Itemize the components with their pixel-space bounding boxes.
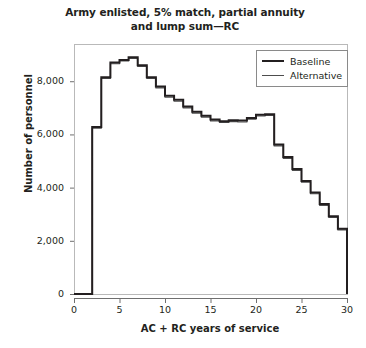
legend-label-baseline: Baseline bbox=[290, 56, 330, 67]
x-tick-label: 25 bbox=[287, 304, 317, 315]
y-tick-label: 4,000 bbox=[18, 182, 64, 193]
series-line-alternative bbox=[74, 58, 347, 294]
x-axis-title: AC + RC years of service bbox=[74, 323, 346, 334]
x-tick-label: 0 bbox=[59, 304, 89, 315]
x-tick-label: 30 bbox=[332, 304, 362, 315]
x-tick-label: 20 bbox=[241, 304, 271, 315]
legend-item-alternative: Alternative bbox=[262, 68, 343, 82]
y-tick-label: 0 bbox=[18, 288, 64, 299]
series-line-baseline bbox=[74, 57, 347, 294]
x-tick-label: 15 bbox=[196, 304, 226, 315]
chart-figure: Army enlisted, 5% match, partial annuity… bbox=[0, 0, 366, 348]
y-tick-label: 2,000 bbox=[18, 235, 64, 246]
legend-label-alternative: Alternative bbox=[290, 70, 342, 81]
x-tick-label: 10 bbox=[150, 304, 180, 315]
y-tick-label: 6,000 bbox=[18, 128, 64, 139]
x-tick-label: 5 bbox=[105, 304, 135, 315]
legend-line-baseline-icon bbox=[262, 60, 284, 62]
legend-line-alternative-icon bbox=[262, 75, 284, 76]
y-tick-label: 8,000 bbox=[18, 75, 64, 86]
legend-item-baseline: Baseline bbox=[262, 54, 343, 68]
chart-legend: Baseline Alternative bbox=[256, 50, 348, 87]
